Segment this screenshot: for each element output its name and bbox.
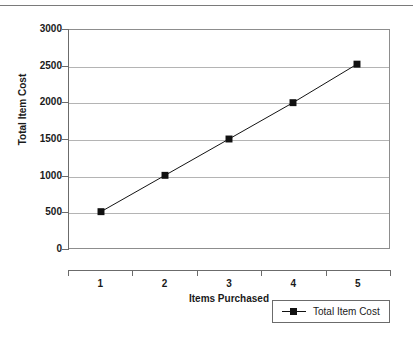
y-axis-tick-label: 1000: [10, 171, 62, 181]
y-axis-tick-label: 0: [10, 244, 62, 254]
plot-area: [68, 29, 390, 249]
y-axis-tick-label: 3000: [10, 24, 62, 34]
legend-marker-icon: [282, 307, 306, 316]
y-axis-tick: [62, 212, 69, 213]
y-axis-title: Total Item Cost: [17, 55, 28, 165]
y-axis-tick: [62, 102, 69, 103]
x-axis-tick: [68, 270, 69, 276]
series-plot-svg: [69, 30, 389, 248]
header-text-fragment: ........ .... ... ....: [2, 0, 54, 2]
y-axis-tick: [62, 176, 69, 177]
x-axis-tick-label: 4: [273, 278, 313, 289]
x-axis-line: [68, 270, 391, 271]
x-axis-tick-label: 3: [209, 278, 249, 289]
x-axis-tick: [197, 270, 198, 276]
legend-item-total-item-cost[interactable]: Total Item Cost: [273, 306, 380, 317]
series-data-point[interactable]: [98, 208, 105, 215]
line-chart-figure: 050010001500200025003000 Total Item Cost…: [0, 8, 413, 338]
legend-item-label: Total Item Cost: [313, 306, 380, 317]
page-header-strip: ........ .... ... ....: [0, 0, 413, 8]
y-axis-tick: [62, 29, 69, 30]
series-data-point[interactable]: [354, 61, 361, 68]
x-axis-tick: [261, 270, 262, 276]
x-axis-tick-label: 1: [80, 278, 120, 289]
x-axis-tick-label: 5: [338, 278, 378, 289]
series-data-point[interactable]: [162, 172, 169, 179]
header-horizontal-rule: [0, 5, 413, 6]
legend-square-marker-icon: [290, 308, 297, 315]
series-data-point[interactable]: [226, 136, 233, 143]
y-axis-tick: [62, 139, 69, 140]
y-axis-tick: [62, 249, 69, 250]
x-axis-tick: [390, 270, 391, 276]
x-axis-tick-label: 2: [145, 278, 185, 289]
y-axis-tick-label: 500: [10, 207, 62, 217]
series-data-point[interactable]: [290, 99, 297, 106]
chart-legend[interactable]: Total Item Cost: [272, 300, 390, 323]
x-axis-tick: [326, 270, 327, 276]
x-axis-tick: [132, 270, 133, 276]
y-axis-tick: [62, 66, 69, 67]
